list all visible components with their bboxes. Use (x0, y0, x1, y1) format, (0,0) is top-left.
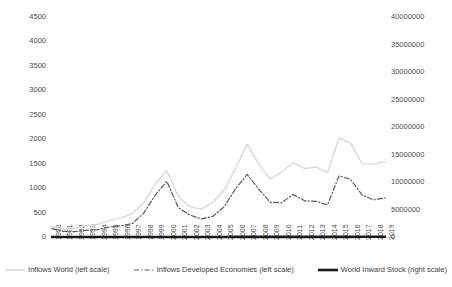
y-axis-right-tick-label: 10000000 (391, 178, 424, 186)
y-axis-left-tick-label: 4000 (0, 37, 46, 45)
y-axis-right-tick-label: 25000000 (391, 96, 424, 104)
series-lines (52, 17, 385, 237)
y-axis-left-tick-label: 500 (0, 209, 46, 217)
y-axis-left-tick-label: 1500 (0, 160, 46, 168)
y-axis-left-tick-label: 1000 (0, 184, 46, 192)
x-axis-tick-label: 2019 (388, 224, 395, 240)
legend-item-label: Inflows Developed Economies (left scale) (157, 266, 294, 274)
y-axis-left-tick-label: 3500 (0, 62, 46, 70)
legend-item-1[interactable]: Inflows Developed Economies (left scale) (134, 266, 294, 274)
y-axis-left-tick-label: 2500 (0, 111, 46, 119)
legend-item-label: World Inward Stock (right scale) (341, 266, 447, 274)
y-axis-left-tick-label: 0 (0, 233, 46, 241)
legend-item-0[interactable]: Inflows World (left scale) (5, 266, 110, 274)
chart-legend: Inflows World (left scale)Inflows Develo… (0, 266, 452, 274)
y-axis-right-tick-label: 20000000 (391, 123, 424, 131)
y-axis-right-tick-label: 35000000 (391, 41, 424, 49)
y-axis-right-tick-label: 5000000 (391, 206, 420, 214)
y-axis-left-tick-label: 2000 (0, 135, 46, 143)
y-axis-right-tick-label: 40000000 (391, 13, 424, 21)
legend-item-2[interactable]: World Inward Stock (right scale) (318, 266, 447, 274)
legend-item-label: Inflows World (left scale) (28, 266, 110, 274)
y-axis-left-tick-label: 3000 (0, 86, 46, 94)
series-line-0 (52, 138, 385, 229)
y-axis-left-tick-label: 4500 (0, 13, 46, 21)
line-solid-light-icon (5, 266, 25, 274)
plot-area (52, 17, 385, 237)
y-axis-right-tick-label: 15000000 (391, 151, 424, 159)
line-dashdot-icon (134, 266, 154, 274)
chart-container: 050010001500200025003000350040004500 050… (0, 0, 452, 287)
y-axis-right-tick-label: 30000000 (391, 68, 424, 76)
line-solid-bold-icon (318, 266, 338, 274)
